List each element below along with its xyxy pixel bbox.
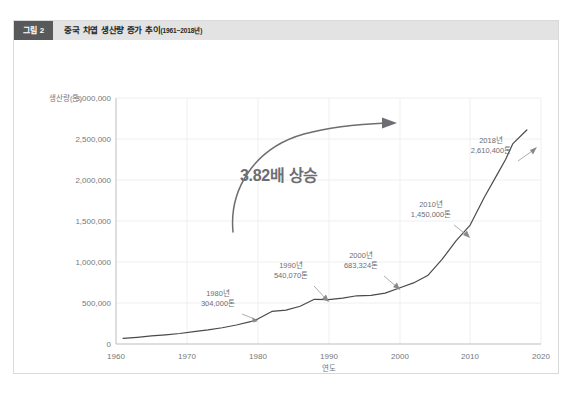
figure-subtitle-period: (1961~2018년) [160,21,202,40]
x-tick-label-1960: 1960 [107,352,125,361]
x-tick-label-1970: 1970 [178,352,196,361]
annotation-2010-value: 1,450,000톤 [411,210,451,219]
annotation-1990-value: 540,070톤 [274,271,308,280]
annotation-2000-value: 683,324톤 [344,261,378,270]
annotation-2000-year: 2000년 [349,250,373,260]
figure-title-group: 중국 차엽 생산량 증가 추이 (1961~2018년) [53,21,202,40]
annotation-1990-year: 1990년 [279,260,303,270]
line-chart: 생산량(톤) 3,000,000 2,500,000 2,000,000 1,5… [14,40,560,374]
y-tick-label-1000000: 1,000,000 [75,258,111,267]
x-tick-label-1990: 1990 [320,352,338,361]
y-tick-label-0: 0 [107,340,112,349]
annotation-1980-year: 1980년 [206,288,230,298]
figure-frame: 그림 2 중국 차엽 생산량 증가 추이 (1961~2018년) [13,20,559,374]
annotation-1980-value: 304,000톤 [201,299,235,308]
annotation-2018-year: 2018년 [479,135,503,145]
x-axis-title: 연도 [322,364,336,373]
x-tick-label-1980: 1980 [249,352,267,361]
y-tick-label-500000: 500,000 [82,299,111,308]
figure-header: 그림 2 중국 차엽 생산량 증가 추이 (1961~2018년) [14,21,558,40]
y-tick-label-1500000: 1,500,000 [75,217,111,226]
annotation-2010-year: 2010년 [419,199,443,209]
growth-multiplier-callout: 3.82배 상승 [240,167,318,184]
figure-title: 중국 차엽 생산량 증가 추이 [64,21,160,40]
x-tick-label-2010: 2010 [461,352,479,361]
x-tick-label-2020: 2020 [532,352,550,361]
plot-area: 생산량(톤) 3,000,000 2,500,000 2,000,000 1,5… [14,40,560,374]
figure-number-badge: 그림 2 [14,21,53,40]
y-tick-label-3000000: 3,000,000 [75,94,111,103]
y-tick-label-2000000: 2,000,000 [75,176,111,185]
y-tick-label-2500000: 2,500,000 [75,135,111,144]
x-tick-label-2000: 2000 [391,352,409,361]
annotation-2018-value: 2,610,400톤 [471,146,511,155]
